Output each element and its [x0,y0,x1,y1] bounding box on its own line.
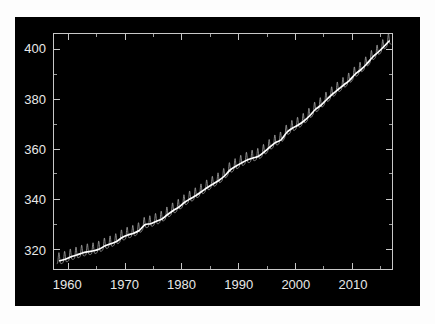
x-tick-label-1980: 1980 [167,277,196,292]
x-tick-label-2010: 2010 [339,277,368,292]
x-tick-label-1990: 1990 [224,277,253,292]
x-tick-label-1960: 1960 [53,277,82,292]
co2-trend-series [60,41,389,261]
y-tick-label-400: 400 [24,41,46,56]
x-tick-label-2000: 2000 [281,277,310,292]
plot-area [53,33,393,270]
seasonal-co2-series [57,34,392,264]
y-tick-label-320: 320 [24,242,46,257]
y-tick-label-360: 360 [24,141,46,156]
y-tick-label-380: 380 [24,91,46,106]
axis-ticks [54,34,392,269]
x-tick-label-1970: 1970 [110,277,139,292]
figure-canvas: 320340360380400 196019701980199020002010 [15,17,420,306]
y-tick-label-340: 340 [24,192,46,207]
chart-page: 320340360380400 196019701980199020002010 [0,0,435,324]
keeling-curve-plot [54,34,392,269]
